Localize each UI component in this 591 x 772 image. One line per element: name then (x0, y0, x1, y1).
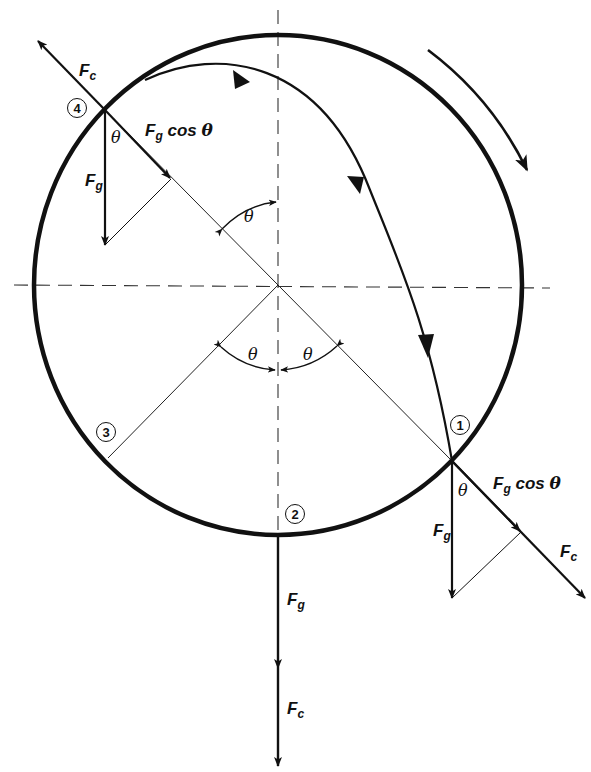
fg-label-1: Fg (433, 522, 451, 542)
projection-line-4 (105, 179, 171, 245)
radius-to-3 (108, 285, 278, 458)
theta-label-lower-left: θ (248, 347, 258, 363)
position-marker-3: 3 (96, 422, 116, 442)
position-marker-4: 4 (67, 98, 87, 118)
position-label-2: 2 (291, 507, 298, 522)
theta-label-4: θ (111, 130, 121, 146)
position-marker-1: 1 (450, 415, 470, 435)
horizontal-axis (14, 285, 550, 288)
trajectory-arrow-3-icon (418, 334, 434, 358)
projection-line-1 (452, 532, 521, 598)
fg-label-2: Fg (287, 591, 305, 611)
trajectory-arrowheads (233, 70, 434, 358)
theta-label-lower-right: θ (303, 347, 313, 363)
fg-cos-theta-label-4: Fg cos θ (145, 122, 213, 142)
theta-label-1: θ (458, 483, 468, 499)
fc-label-1: Fc (560, 543, 577, 563)
position-label-1: 1 (456, 418, 463, 433)
theta-label-upper: θ (244, 209, 254, 225)
position-label-4: 4 (73, 101, 80, 116)
trajectory-arrow-2-icon (347, 176, 364, 194)
position-label-3: 3 (102, 425, 109, 440)
fc-label-2: Fc (287, 700, 304, 720)
fg-cos-theta-label-1: Fg cos θ (493, 475, 561, 495)
fc-label-4: Fc (79, 62, 96, 82)
rotation-arrow-icon (428, 50, 527, 170)
trajectory-arrow-1-icon (233, 70, 250, 89)
drum-force-diagram (0, 0, 591, 772)
position-marker-2: 2 (285, 504, 305, 524)
radius-to-1 (278, 285, 452, 461)
fg-label-4: Fg (85, 172, 103, 192)
